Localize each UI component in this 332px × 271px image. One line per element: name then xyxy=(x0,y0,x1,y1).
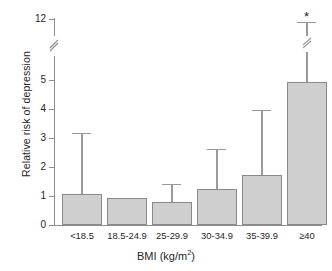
y-tick-label-3: 3 xyxy=(12,132,46,143)
y-tick-label-4: 4 xyxy=(12,103,46,114)
x-axis-title: BMI (kg/m2) xyxy=(0,248,332,262)
significance-asterisk: * xyxy=(299,12,315,22)
bar-25-29-9 xyxy=(152,202,192,226)
y-tick-0 xyxy=(49,225,54,226)
bar-35-39-9 xyxy=(242,175,282,226)
x-tick-label-4: 35-39.9 xyxy=(236,230,288,241)
y-tick-2 xyxy=(49,167,54,168)
errorbar-line-ge40 xyxy=(306,22,307,82)
y-tick-label-12: 12 xyxy=(12,13,46,24)
y-tick-label-1: 1 xyxy=(12,190,46,201)
errorbar-line-35-39-9 xyxy=(261,110,262,175)
y-tick-5 xyxy=(49,80,54,81)
bar-30-34-9 xyxy=(197,189,237,226)
x-axis-title-base: BMI (kg/m xyxy=(137,250,187,262)
errorbar-line-lt18-5 xyxy=(81,133,82,194)
y-tick-4 xyxy=(49,109,54,110)
errorbar-cap-lt18-5 xyxy=(72,133,91,134)
bar-18-5-24-9 xyxy=(107,198,147,226)
axis-break-icon xyxy=(47,36,63,56)
y-tick-label-0: 0 xyxy=(12,219,46,230)
errorbar-cap-35-39-9 xyxy=(252,110,271,111)
errorbar-cap-25-29-9 xyxy=(162,184,181,185)
y-tick-12 xyxy=(49,19,54,20)
x-tick-label-5: ≥40 xyxy=(284,230,330,241)
bar-lt18-5 xyxy=(62,194,102,226)
errorbar-line-25-29-9 xyxy=(171,184,172,202)
y-tick-label-2: 2 xyxy=(12,161,46,172)
x-axis-title-tail: ) xyxy=(191,250,195,262)
y-tick-3 xyxy=(49,138,54,139)
bar-ge40 xyxy=(287,82,327,226)
y-tick-1 xyxy=(49,196,54,197)
y-tick-label-5: 5 xyxy=(12,74,46,85)
errorbar-break-icon xyxy=(301,36,313,52)
chart-canvas: Relative risk of depression 0 1 2 3 4 5 … xyxy=(0,0,332,271)
errorbar-line-30-34-9 xyxy=(216,149,217,189)
errorbar-cap-30-34-9 xyxy=(207,149,226,150)
